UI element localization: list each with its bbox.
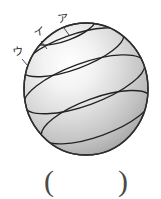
answer-close-paren: )	[118, 166, 128, 196]
band-label-a: ア	[56, 12, 68, 24]
band-label-u: ウ	[11, 45, 23, 57]
band-label-i: イ	[32, 25, 44, 37]
answer-open-paren: (	[44, 166, 54, 196]
leader-line-u	[22, 59, 28, 66]
sphere-diagram	[0, 0, 161, 199]
figure-container: ア イ ウ ( )	[0, 0, 161, 199]
